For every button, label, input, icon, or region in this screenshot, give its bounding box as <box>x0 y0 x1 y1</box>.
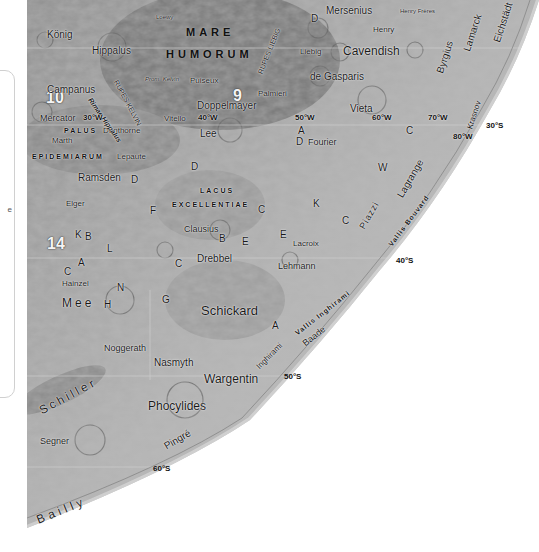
satellite-letter: C <box>258 205 265 215</box>
side-panel: e <box>0 70 15 398</box>
crater-label: König <box>47 30 73 40</box>
crater-label: Wargentin <box>204 373 258 385</box>
satellite-letter: E <box>280 230 287 240</box>
mare-label: MARE <box>186 27 234 38</box>
satellite-letter: B <box>85 232 92 242</box>
satellite-letter: E <box>242 237 249 247</box>
satellite-letter: H <box>104 300 111 310</box>
crater-label: Noggerath <box>104 344 146 353</box>
crater-label: Elger <box>66 200 85 208</box>
crater-label: Mersenius <box>326 6 372 16</box>
crater-label: Clausius <box>184 225 219 234</box>
crater-label: Ramsden <box>78 173 121 183</box>
crater-label: Palmieri <box>258 90 287 98</box>
satellite-letter: C <box>342 216 349 226</box>
lacus-label: LACUS <box>200 187 234 194</box>
crater-label: Fourier <box>308 138 337 147</box>
crater-label: Henry Frères <box>400 8 435 14</box>
crater-label: Nasmyth <box>154 358 193 368</box>
satellite-letter: W <box>378 163 387 173</box>
crater-label: Schickard <box>201 304 258 317</box>
crater-label: Phocylides <box>148 400 206 412</box>
crater-label: Mee <box>62 297 94 309</box>
grid-label-30w: 30°W <box>83 114 103 122</box>
satellite-letter: D <box>131 175 138 185</box>
crater-label: Lehmann <box>278 262 316 271</box>
crater-label: Vitello <box>164 115 186 123</box>
crater-label: Segner <box>40 437 69 446</box>
satellite-letter: K <box>75 230 82 240</box>
crater-label: Loewy <box>156 14 173 20</box>
epidemiarum-label: EPIDEMIARUM <box>32 153 104 160</box>
crater-label: Liebig <box>300 48 321 56</box>
satellite-letter: F <box>150 206 156 216</box>
satellite-letter: A <box>298 126 305 136</box>
lunar-map[interactable] <box>27 0 539 552</box>
crater-label: Marth <box>52 137 72 145</box>
crater-label: Lepaute <box>117 153 146 161</box>
satellite-letter: N <box>117 283 124 293</box>
crater-label: Hainzel <box>62 280 89 288</box>
grid-label-30s: 30°S <box>486 122 503 130</box>
crater-label: de Gasparis <box>310 72 364 82</box>
crater-label: Doppelmayer <box>197 101 256 111</box>
satellite-letter: D <box>191 162 198 172</box>
crater-label: Drebbel <box>197 254 232 264</box>
satellite-letter: D <box>311 14 318 24</box>
side-panel-fragment: e <box>8 205 12 214</box>
grid-label-40w: 40°W <box>198 114 218 122</box>
satellite-letter: B <box>219 234 226 244</box>
satellite-letter: G <box>162 295 170 305</box>
feature-label: Prom. Kelvin <box>145 76 179 82</box>
crater-label: Puiseux <box>190 77 218 85</box>
crater-label: Lacroix <box>293 240 319 248</box>
satellite-letter: L <box>107 244 113 254</box>
crater-label: Vieta <box>350 104 373 114</box>
satellite-letter: C <box>175 259 182 269</box>
map-surface <box>27 0 539 552</box>
satellite-letter: K <box>313 199 320 209</box>
grid-label-40s: 40°S <box>396 257 413 265</box>
grid-label-70w: 70°W <box>428 114 448 122</box>
crater-label: Henry <box>373 26 394 34</box>
grid-label-50s: 50°S <box>284 373 301 381</box>
region-number-14: 14 <box>47 236 65 252</box>
crater-label: Lee <box>200 129 217 139</box>
satellite-letter: A <box>272 321 279 331</box>
crater-label: Cavendish <box>343 45 400 57</box>
grid-label-80w: 80°W <box>453 133 473 141</box>
crater-label: Hippalus <box>92 46 131 56</box>
palus-label: PALUS <box>64 127 97 134</box>
satellite-letter: C <box>406 126 413 136</box>
excellentiae-label: EXCELLENTIAE <box>172 201 249 208</box>
satellite-letter: A <box>78 258 85 268</box>
grid-label-60s: 60°S <box>153 465 170 473</box>
satellite-letter: C <box>64 267 71 277</box>
grid-label-50w: 50°W <box>295 114 315 122</box>
crater-label: Mercator <box>40 114 76 123</box>
grid-label-60w: 60°W <box>372 114 392 122</box>
mare-label: HUMORUM <box>166 49 253 60</box>
satellite-letter: D <box>296 137 303 147</box>
crater-label: Campanus <box>47 85 95 95</box>
